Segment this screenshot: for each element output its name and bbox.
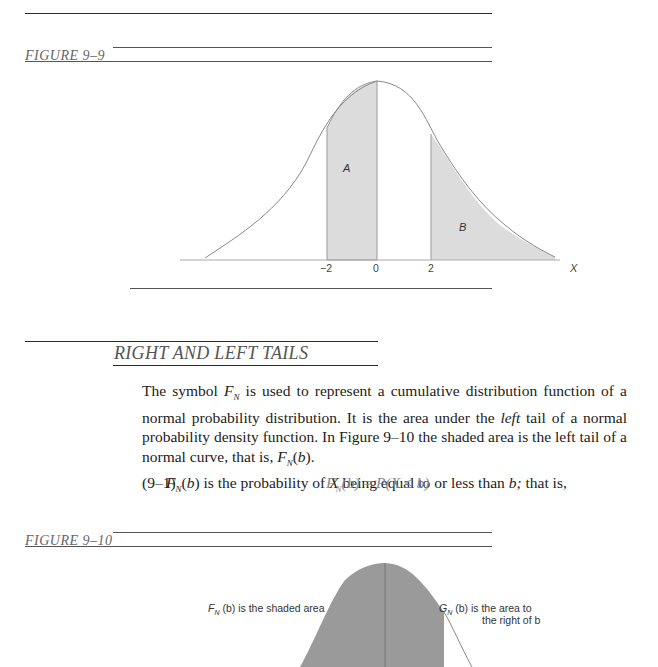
region-b-shading bbox=[431, 134, 555, 260]
region-a-shading bbox=[327, 81, 377, 260]
equation-9-1: FN(b) = P(X ≤ b) bbox=[326, 474, 429, 494]
figure-9-10-chart: FN (b) is the shaded area GN (b) is the … bbox=[0, 550, 658, 667]
equation-number: (9–1) bbox=[142, 474, 176, 492]
fn-annotation: FN (b) is the shaded area bbox=[208, 602, 325, 616]
region-a-label: A bbox=[342, 162, 350, 174]
left-tail-shading bbox=[300, 563, 444, 667]
section-title: RIGHT AND LEFT TAILS bbox=[114, 343, 308, 364]
figure-9-10-bottom-rule bbox=[25, 546, 492, 547]
tick-0: 0 bbox=[373, 262, 379, 274]
region-b-label: B bbox=[459, 221, 466, 233]
tick-2: 2 bbox=[428, 262, 434, 274]
x-axis-label: X bbox=[569, 262, 578, 274]
figure-9-9-end-rule bbox=[130, 288, 492, 289]
figure-9-10-top-rule bbox=[113, 532, 492, 533]
right-tail-curve bbox=[444, 612, 472, 667]
paragraph-1: The symbol FN is used to represent a cum… bbox=[142, 381, 627, 473]
figure-9-9-chart: A B −2 0 2 X bbox=[0, 0, 658, 300]
tick-minus-2: −2 bbox=[320, 262, 332, 274]
gn-annotation-line2: the right of b bbox=[482, 614, 541, 626]
section-bottom-rule bbox=[113, 365, 378, 366]
section-top-rule bbox=[25, 341, 378, 342]
